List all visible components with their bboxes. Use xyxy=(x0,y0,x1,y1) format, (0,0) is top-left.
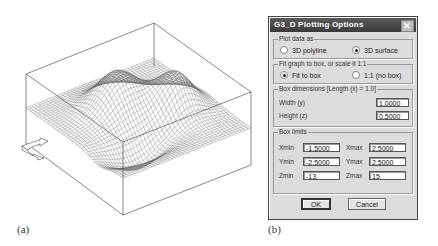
fit-graph-group: Fit graph to box, or scale it 1:1 Fit to… xyxy=(273,64,413,84)
radio-3d-polyline[interactable]: 3D polyline xyxy=(280,46,327,54)
ok-button[interactable]: OK xyxy=(301,198,331,210)
height-label: Height (z) xyxy=(279,112,307,119)
dialog-title: G3_D Plotting Options xyxy=(274,20,364,29)
radio-label: 3D surface xyxy=(364,47,398,54)
zmin-field[interactable]: -13 xyxy=(303,171,340,180)
cancel-button[interactable]: Cancel xyxy=(348,198,386,210)
width-label: Width (y) xyxy=(279,99,305,106)
box-limits-legend: Box limits xyxy=(278,128,308,135)
radio-label: 3D polyline xyxy=(292,47,327,54)
panel-b-label: (b) xyxy=(268,223,281,235)
plot-data-as-group: Plot data as 3D polyline 3D surface xyxy=(273,39,413,59)
xmin-label: Xmin xyxy=(279,144,294,151)
xmin-field[interactable]: -1.5000 xyxy=(303,143,340,152)
width-field[interactable]: 1.0000 xyxy=(376,98,409,107)
radio-3d-surface[interactable]: 3D surface xyxy=(352,46,398,54)
zmax-label: Zmax xyxy=(346,172,362,179)
box-dimensions-group: Box dimensions [Length (x) = 1.0] Width … xyxy=(273,89,413,127)
surface-mesh xyxy=(26,58,251,178)
ymax-field[interactable]: 2.5000 xyxy=(369,157,406,166)
plotting-options-dialog: G3_D Plotting Options ✕ Plot data as 3D … xyxy=(268,16,418,220)
ymax-label: Ymax xyxy=(346,158,363,165)
radio-label: 1:1 (no box) xyxy=(364,72,401,79)
box-limits-group: Box limits Xmin -1.5000 Xmax 2.5000 Ymin… xyxy=(273,132,413,194)
radio-no-box[interactable]: 1:1 (no box) xyxy=(352,71,401,79)
zmin-label: Zmin xyxy=(279,172,293,179)
box-dimensions-legend: Box dimensions [Length (x) = 1.0] xyxy=(278,85,377,92)
close-icon[interactable]: ✕ xyxy=(401,20,414,32)
xmax-label: Xmax xyxy=(346,144,363,151)
fit-graph-legend: Fit graph to box, or scale it 1:1 xyxy=(278,60,367,67)
zmax-field[interactable]: 15 xyxy=(369,171,406,180)
ymin-label: Ymin xyxy=(279,158,294,165)
surface-plot xyxy=(0,0,262,230)
radio-selected-icon xyxy=(280,71,288,79)
radio-selected-icon xyxy=(352,46,360,54)
ymin-field[interactable]: -2.5000 xyxy=(303,157,340,166)
plot-data-as-legend: Plot data as xyxy=(278,35,314,42)
panel-a-label: (a) xyxy=(17,223,29,235)
radio-unselected-icon xyxy=(280,46,288,54)
radio-fit-to-box[interactable]: Fit to box xyxy=(280,71,321,79)
dialog-titlebar[interactable]: G3_D Plotting Options ✕ xyxy=(270,18,416,32)
xmax-field[interactable]: 2.5000 xyxy=(369,143,406,152)
radio-unselected-icon xyxy=(352,71,360,79)
height-field[interactable]: 0.5000 xyxy=(376,111,409,120)
radio-label: Fit to box xyxy=(292,72,321,79)
